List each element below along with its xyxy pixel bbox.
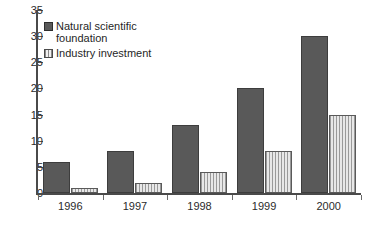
x-tick-mark [232,195,233,200]
bar-1999-series-2 [265,151,292,193]
bar-chart: 05101520253035 19961997199819992000 Natu… [0,0,370,231]
bar-1997-series-2 [135,183,162,193]
bar-1996-series-1 [43,162,70,193]
legend-swatch-icon-series-a [44,22,53,31]
x-tick-mark [103,195,104,200]
bar-2000-series-2 [329,115,356,193]
bar-2000-series-1 [301,36,328,193]
bar-1997-series-1 [107,151,134,193]
x-tick-label-1998: 1998 [187,201,211,212]
x-tick-label-1999: 1999 [252,201,276,212]
x-tick-mark [38,195,39,200]
chart-legend: Natural scientific foundation Industry i… [44,20,151,62]
x-tick-label-1997: 1997 [123,201,147,212]
bar-1998-series-2 [200,172,227,193]
bar-1996-series-2 [71,188,98,193]
bar-group-2000 [296,10,361,193]
x-tick-mark [361,195,362,200]
bar-1998-series-1 [172,125,199,193]
legend-label-series-a: Natural scientific foundation [56,20,137,44]
x-axis-line [36,193,361,195]
x-tick-mark [296,195,297,200]
legend-swatch-icon-series-b [44,49,53,58]
legend-label-series-b: Industry investment [56,47,151,59]
bar-group-1998 [167,10,232,193]
bar-1999-series-1 [237,88,264,193]
x-tick-label-2000: 2000 [316,201,340,212]
bar-group-1999 [232,10,297,193]
x-tick-label-1996: 1996 [58,201,82,212]
legend-item-industry-investment: Industry investment [44,47,151,59]
legend-item-natural-scientific-foundation: Natural scientific foundation [44,20,151,44]
x-tick-mark [167,195,168,200]
